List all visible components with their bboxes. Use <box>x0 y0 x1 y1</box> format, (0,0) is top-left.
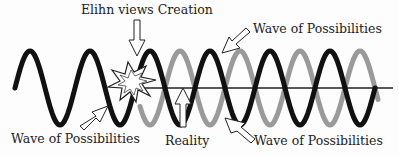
label-elihn-views-creation: Elihn views Creation <box>81 2 213 17</box>
arrow-top-right-icon <box>222 28 250 53</box>
arrow-bottom-left-icon <box>80 106 108 130</box>
label-wave-of-possibilities-bottom-right: Wave of Possibilities <box>254 133 383 148</box>
arrow-bottom-right-icon <box>225 118 255 143</box>
wave-diagram: Elihn views Creation Wave of Possibiliti… <box>0 0 399 157</box>
arrow-down-icon <box>129 20 145 56</box>
label-wave-of-possibilities-bottom-left: Wave of Possibilities <box>11 131 140 146</box>
label-reality: Reality <box>165 133 209 148</box>
creation-burst-icon <box>108 62 156 102</box>
label-wave-of-possibilities-top-right: Wave of Possibilities <box>253 21 382 36</box>
